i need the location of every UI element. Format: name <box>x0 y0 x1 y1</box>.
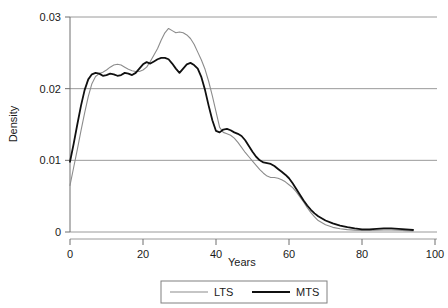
series-line-mts <box>70 58 413 230</box>
legend[interactable]: LTSMTS <box>161 281 327 303</box>
x-tick-label: 40 <box>210 248 222 260</box>
series-line-lts <box>70 28 413 231</box>
gridlines <box>65 17 437 232</box>
x-tick-label: 80 <box>356 248 368 260</box>
y-tick-label: 0.02 <box>40 83 61 95</box>
x-tick-label: 60 <box>283 248 295 260</box>
x-tick-label: 100 <box>426 248 444 260</box>
y-axis-tick-labels: 00.010.020.03 <box>40 11 61 238</box>
y-tick-label: 0 <box>55 226 61 238</box>
legend-label-lts[interactable]: LTS <box>214 286 233 298</box>
legend-label-mts[interactable]: MTS <box>296 286 319 298</box>
density-chart-figure: Density Years 020406080100 00.010.020.03… <box>0 0 448 308</box>
axis-lines <box>70 17 437 239</box>
series-lines <box>70 28 413 231</box>
x-tick-label: 0 <box>67 248 73 260</box>
x-axis-ticks: 020406080100 <box>67 239 444 260</box>
plot-canvas: 020406080100 00.010.020.03 LTSMTS <box>0 0 448 308</box>
y-tick-label: 0.01 <box>40 154 61 166</box>
y-tick-label: 0.03 <box>40 11 61 23</box>
x-tick-label: 20 <box>137 248 149 260</box>
